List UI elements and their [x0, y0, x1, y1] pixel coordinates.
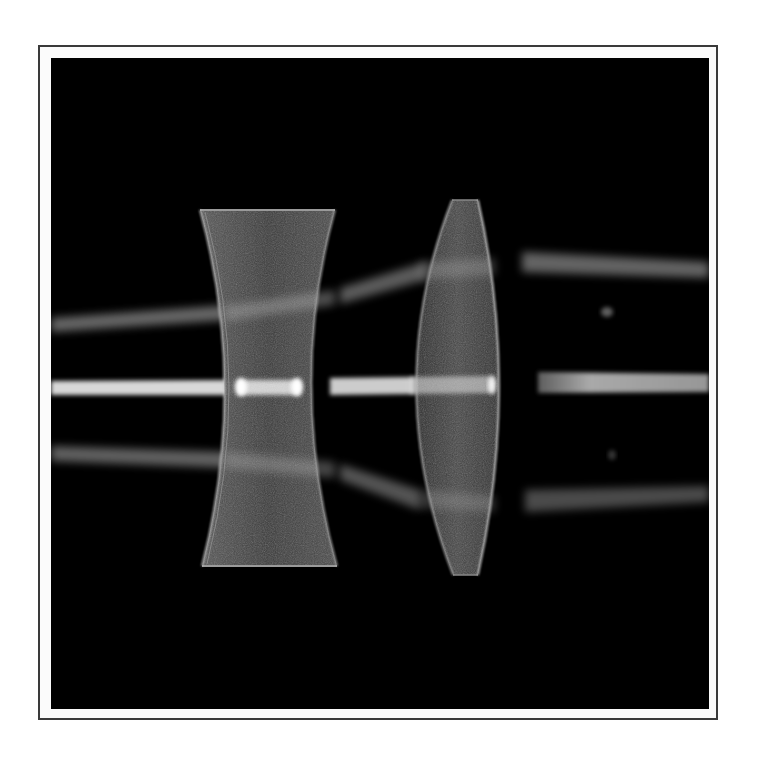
lens-illustration: [51, 58, 709, 709]
lens-photograph: [51, 58, 709, 709]
